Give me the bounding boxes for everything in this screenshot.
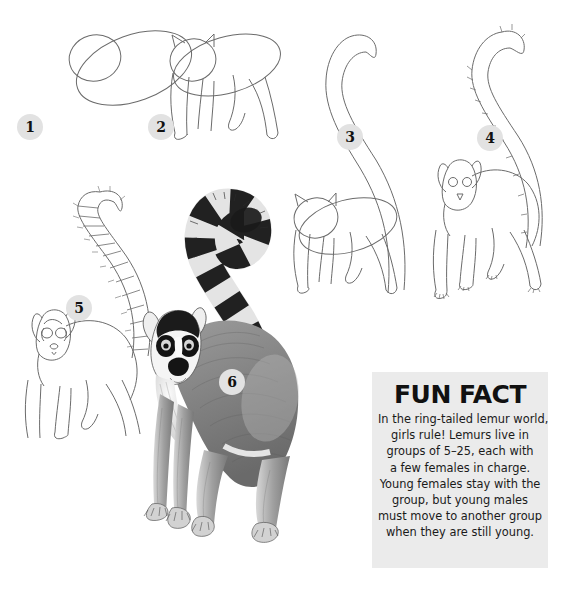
fun-fact-line: must move to another group: [378, 508, 542, 524]
fun-fact-line: Young females stay with the: [378, 476, 542, 492]
step-number-3: 3: [345, 130, 355, 144]
step-4-illustration: [428, 16, 568, 306]
step-number-1: 1: [25, 120, 35, 134]
step-badge-5: 5: [66, 295, 92, 321]
fun-fact-title: FUN FACT: [378, 382, 542, 407]
step-badge-3: 3: [337, 124, 363, 150]
fun-fact-line: groups of 5–25, each with: [378, 443, 542, 459]
fun-fact-body: In the ring-tailed lemur world, girls ru…: [378, 411, 542, 541]
step-number-2: 2: [156, 120, 166, 134]
step-number-6: 6: [227, 375, 237, 389]
step-number-5: 5: [74, 301, 84, 315]
step-6-illustration: [112, 198, 337, 598]
fun-fact-panel: FUN FACT In the ring-tailed lemur world,…: [372, 372, 548, 568]
step-badge-6: 6: [219, 369, 245, 395]
fun-fact-line: In the ring-tailed lemur world,: [378, 411, 542, 427]
step-2-illustration: [165, 25, 295, 150]
fun-fact-line: when they are still young.: [378, 524, 542, 540]
step-badge-4: 4: [477, 125, 503, 151]
fun-fact-line: group, but young males: [378, 492, 542, 508]
fun-fact-line: a few females in charge.: [378, 460, 542, 476]
step-number-4: 4: [485, 131, 495, 145]
drawing-tutorial-canvas: 1 2: [0, 0, 572, 613]
step-badge-2: 2: [148, 114, 174, 140]
step-badge-1: 1: [17, 114, 43, 140]
fun-fact-line: girls rule! Lemurs live in: [378, 427, 542, 443]
